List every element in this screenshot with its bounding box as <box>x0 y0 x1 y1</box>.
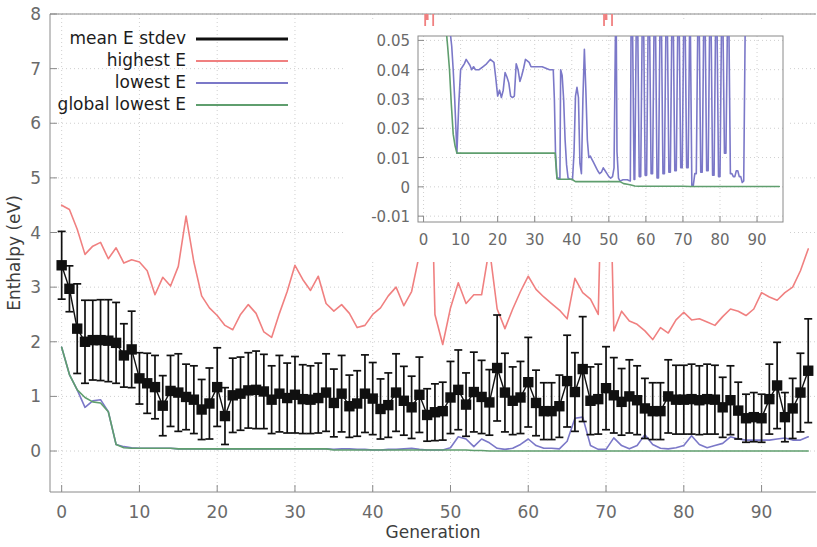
mean-marker <box>352 398 362 408</box>
mean-marker <box>321 387 331 397</box>
mean-marker <box>756 413 766 423</box>
inset-y-tick-label: 0.04 <box>377 62 410 80</box>
x-tick-label: 30 <box>284 502 306 522</box>
inset-x-tick-label: 70 <box>673 231 692 249</box>
inset-x-tick-label: 90 <box>748 231 767 249</box>
mean-marker <box>764 394 774 404</box>
mean-marker <box>803 366 813 376</box>
x-tick-label: 80 <box>673 502 695 522</box>
inset-x-tick-label: 20 <box>488 231 507 249</box>
inset-x-tick-label: 80 <box>710 231 729 249</box>
inset-x-tick-label: 10 <box>451 231 470 249</box>
y-tick-label: 6 <box>30 113 41 133</box>
x-tick-label: 90 <box>751 502 773 522</box>
mean-marker <box>795 387 805 397</box>
mean-marker <box>212 382 222 392</box>
legend-label: global lowest E <box>58 94 186 114</box>
mean-marker <box>414 390 424 400</box>
inset-y-tick-label: 0.02 <box>377 120 410 138</box>
mean-marker <box>554 401 564 411</box>
x-tick-label: 60 <box>517 502 539 522</box>
legend-label: highest E <box>107 50 186 70</box>
inset-background <box>344 20 789 262</box>
inset-plot: -0.0100.010.020.030.040.0501020304050607… <box>344 11 789 262</box>
x-tick-label: 70 <box>595 502 617 522</box>
x-tick-label: 10 <box>129 502 151 522</box>
x-tick-label: 50 <box>440 502 462 522</box>
inset-x-tick-label: 0 <box>419 231 429 249</box>
y-axis-title: Enthalpy (eV) <box>4 195 24 311</box>
inset-y-tick-label: 0.01 <box>377 150 410 168</box>
mean-marker <box>126 344 136 354</box>
inset-y-tick-label: 0.03 <box>377 91 410 109</box>
mean-marker <box>56 260 66 270</box>
y-tick-label: 8 <box>30 4 41 24</box>
mean-marker <box>368 393 378 403</box>
mean-marker <box>593 394 603 404</box>
enthalpy-vs-generation-figure: 0123456780102030405060708090Enthalpy (eV… <box>0 0 817 547</box>
inset-x-tick-label: 50 <box>599 231 618 249</box>
y-tick-label: 0 <box>30 441 41 461</box>
mean-marker <box>72 323 82 333</box>
mean-marker <box>111 338 121 348</box>
x-tick-label: 0 <box>56 502 67 522</box>
mean-marker <box>64 284 74 294</box>
mean-marker <box>787 403 797 413</box>
mean-marker <box>655 406 665 416</box>
x-tick-label: 40 <box>362 502 384 522</box>
y-tick-label: 2 <box>30 332 41 352</box>
y-tick-label: 7 <box>30 59 41 79</box>
mean-marker <box>189 394 199 404</box>
mean-marker <box>515 392 525 402</box>
inset-x-tick-label: 30 <box>525 231 544 249</box>
mean-marker <box>725 395 735 405</box>
inset-x-tick-label: 60 <box>636 231 655 249</box>
legend: mean E stdevhighest Elowest Eglobal lowe… <box>58 28 288 114</box>
mean-marker <box>329 398 339 408</box>
mean-marker <box>220 411 230 421</box>
inset-y-tick-label: 0 <box>400 179 410 197</box>
mean-marker <box>204 398 214 408</box>
mean-marker <box>492 363 502 373</box>
mean-marker <box>158 400 168 410</box>
inset-y-tick-label: 0.05 <box>377 32 410 50</box>
mean-marker <box>523 377 533 387</box>
mean-marker <box>461 399 471 409</box>
y-tick-label: 5 <box>30 168 41 188</box>
y-tick-label: 3 <box>30 277 41 297</box>
chart-canvas: 0123456780102030405060708090Enthalpy (eV… <box>0 0 817 547</box>
mean-marker <box>562 376 572 386</box>
legend-label: lowest E <box>115 72 186 92</box>
mean-marker <box>570 387 580 397</box>
mean-marker <box>336 388 346 398</box>
x-axis-title: Generation <box>386 522 481 542</box>
inset-x-tick-label: 40 <box>562 231 581 249</box>
y-tick-label: 4 <box>30 223 41 243</box>
mean-marker <box>484 397 494 407</box>
inset-y-tick-label: -0.01 <box>371 208 410 226</box>
mean-marker <box>772 380 782 390</box>
mean-marker <box>453 385 463 395</box>
legend-label: mean E stdev <box>69 28 186 48</box>
mean-marker <box>578 364 588 374</box>
y-tick-label: 1 <box>30 386 41 406</box>
x-tick-label: 20 <box>206 502 228 522</box>
mean-marker <box>438 406 448 416</box>
mean-marker <box>150 382 160 392</box>
mean-marker <box>406 402 416 412</box>
mean-marker <box>383 400 393 410</box>
